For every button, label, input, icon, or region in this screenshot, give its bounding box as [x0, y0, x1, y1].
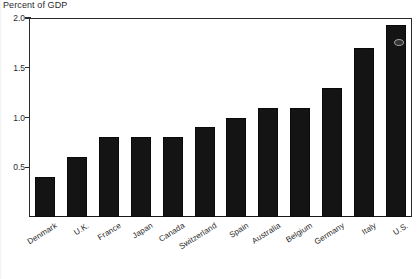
x-axis-category-text: Spain: [228, 221, 251, 240]
bar: [226, 118, 246, 218]
x-axis-category-label: Switzerland: [32, 221, 218, 279]
bar: [195, 127, 215, 217]
bars-container: [29, 18, 412, 217]
bar: [99, 137, 119, 217]
x-axis-category-text: Italy: [360, 221, 378, 237]
bar: [354, 48, 374, 217]
scan-edge-shadow: [0, 0, 2, 279]
bar: [67, 157, 87, 217]
scan-artifact-speck: [394, 39, 404, 46]
y-axis-tick-label: 2.0: [3, 13, 25, 23]
bar: [322, 88, 342, 217]
y-axis-tick-label: 1.0: [3, 113, 25, 123]
bar: [386, 25, 406, 217]
x-axis-category-text: Japan: [131, 221, 155, 240]
bar: [290, 108, 310, 217]
bar: [163, 137, 183, 217]
x-axis-category-text: U.K.: [72, 221, 90, 237]
bar: [258, 108, 278, 217]
y-axis-tick-label: 0.5: [3, 162, 25, 172]
bar: [35, 177, 55, 217]
bar: [131, 137, 151, 217]
bar-chart: Percent of GDP 0.51.01.52.0 DenmarkU.K.F…: [0, 0, 418, 279]
x-axis-labels: DenmarkU.K.FranceJapanCanadaSwitzerlandS…: [0, 217, 418, 279]
y-axis-tick-label: 1.5: [3, 63, 25, 73]
x-axis-category-text: U.S.: [391, 221, 409, 237]
